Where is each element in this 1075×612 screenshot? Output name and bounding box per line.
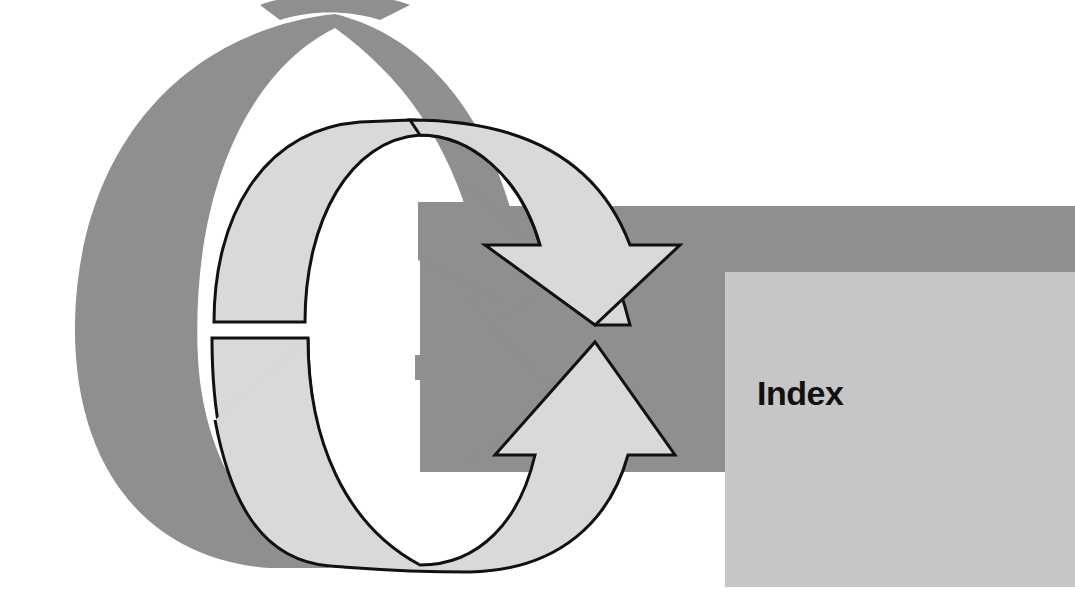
index-panel: Index	[725, 272, 1075, 587]
section-title: Index	[757, 374, 843, 413]
